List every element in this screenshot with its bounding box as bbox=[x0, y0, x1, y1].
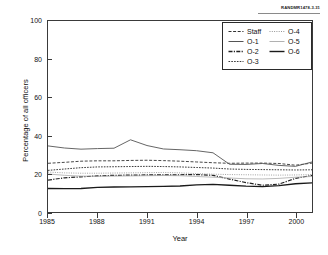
x-tick-label: 1985 bbox=[39, 218, 55, 225]
legend-label: O-1 bbox=[247, 38, 259, 45]
x-tick-label: 1991 bbox=[139, 218, 155, 225]
y-tick-mark bbox=[47, 20, 52, 21]
series-line-o-6 bbox=[48, 183, 312, 189]
legend-label: O-5 bbox=[288, 38, 300, 45]
source-credit-label: RANDMR1478-3.31 bbox=[281, 5, 320, 10]
y-tick-label: 100 bbox=[30, 17, 42, 24]
series-line-o-4 bbox=[48, 172, 312, 175]
legend-entry-o-3[interactable]: O-3 bbox=[228, 57, 266, 67]
y-tick-label: 60 bbox=[34, 94, 42, 101]
series-line-o-1 bbox=[48, 140, 312, 167]
source-rule-divider bbox=[258, 13, 320, 14]
legend-entry-o-5[interactable]: O-5 bbox=[269, 36, 307, 46]
x-tick-mark bbox=[147, 213, 148, 218]
y-tick-mark bbox=[47, 174, 52, 175]
x-tick-mark bbox=[47, 213, 48, 218]
x-tick-mark bbox=[97, 213, 98, 218]
y-tick-label: 80 bbox=[34, 55, 42, 62]
y-tick-mark bbox=[47, 97, 52, 98]
x-tick-label: 1988 bbox=[89, 218, 105, 225]
y-tick-label: 20 bbox=[34, 171, 42, 178]
legend-entry-o-4[interactable]: O-4 bbox=[269, 26, 307, 36]
x-tick-mark bbox=[197, 213, 198, 218]
legend-entry-grid: StaffO-4O-1O-5O-2O-6O-3 bbox=[228, 26, 307, 67]
series-line-o-5 bbox=[48, 174, 312, 179]
x-tick-mark bbox=[296, 213, 297, 218]
legend-entry-o-1[interactable]: O-1 bbox=[228, 36, 266, 46]
x-tick-label: 2000 bbox=[289, 218, 305, 225]
x-tick-label: 1994 bbox=[189, 218, 205, 225]
x-tick-mark bbox=[247, 213, 248, 218]
chart-legend: StaffO-4O-1O-5O-2O-6O-3 bbox=[222, 22, 312, 70]
legend-line-swatch bbox=[228, 58, 244, 65]
legend-label: Staff bbox=[247, 28, 261, 35]
legend-entry-o-2[interactable]: O-2 bbox=[228, 46, 266, 56]
legend-label: O-6 bbox=[288, 48, 300, 55]
legend-label: O-2 bbox=[247, 48, 259, 55]
legend-entry-o-6[interactable]: O-6 bbox=[269, 46, 307, 56]
legend-entry-staff[interactable]: Staff bbox=[228, 26, 266, 36]
chart-figure: RANDMR1478-3.31 Percentage of all office… bbox=[0, 0, 328, 255]
legend-label: O-3 bbox=[247, 58, 259, 65]
legend-line-swatch bbox=[269, 38, 285, 45]
legend-label: O-4 bbox=[288, 28, 300, 35]
y-tick-label: 40 bbox=[34, 132, 42, 139]
legend-line-swatch bbox=[228, 38, 244, 45]
legend-line-swatch bbox=[269, 28, 285, 35]
x-axis-title: Year bbox=[47, 234, 313, 243]
y-tick-mark bbox=[47, 136, 52, 137]
y-tick-mark bbox=[47, 59, 52, 60]
x-tick-label: 1997 bbox=[239, 218, 255, 225]
y-tick-label-group: 020406080100 bbox=[22, 0, 42, 255]
series-line-o-3 bbox=[48, 166, 312, 170]
y-tick-label: 0 bbox=[38, 210, 42, 217]
legend-line-swatch bbox=[228, 28, 244, 35]
legend-line-swatch bbox=[228, 48, 244, 55]
legend-line-swatch bbox=[269, 48, 285, 55]
